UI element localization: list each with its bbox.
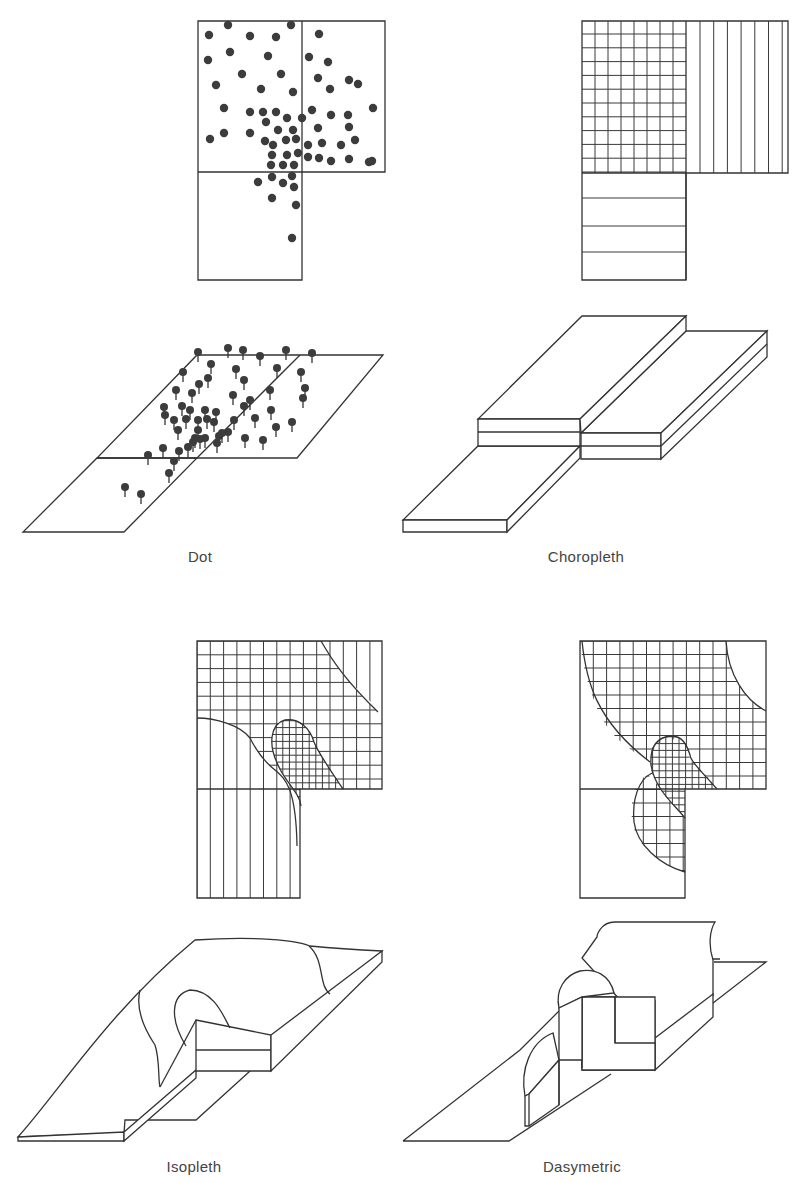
pin-head — [232, 365, 240, 373]
pin-head — [224, 344, 232, 352]
pin-head — [144, 451, 152, 459]
pin-head — [230, 416, 238, 424]
pin-head — [229, 391, 237, 399]
dot-symbol — [354, 80, 362, 88]
pin-head — [241, 434, 249, 442]
pin-head — [189, 438, 197, 446]
dot-symbol — [277, 70, 285, 78]
pin-head — [213, 439, 221, 447]
dot-symbol — [288, 234, 296, 242]
choropleth-plan-outline — [582, 21, 788, 280]
pin-head — [203, 415, 211, 423]
pin-head — [297, 368, 305, 376]
dasymetric-map-plan — [580, 641, 766, 898]
dot-symbol — [344, 111, 352, 119]
dot-symbol — [290, 183, 298, 191]
pin-head — [172, 386, 180, 394]
pin-head — [240, 402, 248, 410]
dot-symbol — [224, 21, 232, 29]
dot-symbol — [287, 21, 295, 29]
pin-head — [195, 380, 203, 388]
pin-head — [266, 386, 274, 394]
pin-head — [256, 352, 264, 360]
isopleth-hatching — [197, 641, 382, 898]
dot-symbol — [290, 161, 298, 169]
dot-symbol — [314, 124, 322, 132]
map-types-figure — [0, 0, 792, 1183]
pin-head — [251, 414, 259, 422]
pin-head — [194, 416, 202, 424]
dot-3d-upper-surface — [97, 355, 383, 458]
dasymetric-boundary-left — [582, 641, 650, 762]
pin-head — [239, 346, 247, 354]
dot-symbol — [212, 81, 220, 89]
pin-head — [212, 408, 220, 416]
dot-3d-divider — [197, 355, 300, 458]
pin-head — [170, 416, 178, 424]
dot-symbol — [246, 32, 254, 40]
dot-plan-dots — [204, 21, 377, 242]
pin-head — [282, 346, 290, 354]
dot-symbol — [308, 106, 316, 114]
caption-dot: Dot — [188, 548, 212, 565]
dot-symbol — [268, 151, 276, 159]
dasymetric-map-3d — [403, 922, 766, 1141]
dot-symbol — [304, 141, 312, 149]
choropleth-horizontal-hatching — [582, 198, 686, 252]
pin-head — [186, 406, 194, 414]
dot-symbol — [205, 31, 213, 39]
dot-symbol — [292, 201, 300, 209]
dot-symbol — [204, 56, 212, 64]
dot-symbol — [327, 157, 335, 165]
dasymetric-arch-side — [559, 997, 582, 1060]
pin-head — [273, 364, 281, 372]
pin-head — [299, 394, 307, 402]
pin-head — [204, 374, 212, 382]
dot-symbol — [314, 74, 322, 82]
pin-head — [182, 415, 190, 423]
pin-head — [196, 435, 204, 443]
dot-symbol — [289, 126, 297, 134]
dot-symbol — [337, 141, 345, 149]
pin-head — [259, 436, 267, 444]
pin-head — [178, 402, 186, 410]
pin-head — [210, 418, 218, 426]
dot-symbol — [261, 137, 269, 145]
caption-choropleth: Choropleth — [548, 548, 624, 565]
pin-head — [218, 429, 226, 437]
dot-symbol — [345, 123, 353, 131]
dot-symbol — [254, 178, 262, 186]
dot-symbol — [226, 48, 234, 56]
dot-symbol — [246, 108, 254, 116]
pin-head — [207, 360, 215, 368]
dot-symbol — [282, 136, 290, 144]
dot-symbol — [345, 76, 353, 84]
pin-head — [121, 483, 129, 491]
dot-symbol — [283, 151, 291, 159]
dot-symbol — [272, 108, 280, 116]
dot-symbol — [318, 139, 326, 147]
pin-head — [194, 426, 202, 434]
dot-symbol — [220, 129, 228, 137]
dasymetric-boundary-peak — [651, 736, 717, 818]
isopleth-map-plan — [197, 641, 382, 898]
choropleth-low-slab-front — [403, 520, 507, 532]
dot-symbol — [279, 161, 287, 169]
pin-head — [246, 396, 254, 404]
dot-symbol — [365, 158, 373, 166]
dot-symbol — [292, 135, 300, 143]
dot-symbol — [274, 126, 282, 134]
pin-head — [194, 348, 202, 356]
pin-head — [174, 426, 182, 434]
dot-symbol — [369, 104, 377, 112]
pin-head — [188, 389, 196, 397]
pin-head — [240, 376, 248, 384]
dot-symbol — [272, 33, 280, 41]
pin-head — [267, 406, 275, 414]
dot-symbol — [206, 135, 214, 143]
caption-isopleth: Isopleth — [167, 1158, 222, 1175]
pin-head — [160, 403, 168, 411]
dot-map-plan — [198, 21, 385, 280]
dot-symbol — [269, 141, 277, 149]
dot-symbol — [283, 114, 291, 122]
